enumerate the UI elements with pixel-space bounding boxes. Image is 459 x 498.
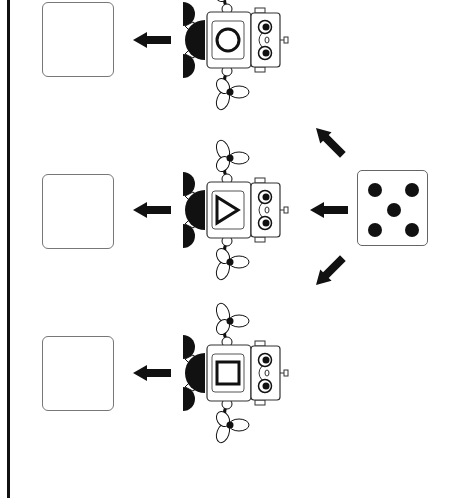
arrow-left-top-icon	[133, 32, 171, 48]
die-pip	[405, 183, 419, 197]
arrow-die-left-icon	[310, 202, 348, 218]
die-pip	[387, 203, 401, 217]
diagram-arrows-and-robots	[0, 0, 459, 498]
robot-middle	[183, 139, 288, 282]
arrow-die-down-left-icon	[310, 252, 348, 290]
robot-bottom	[183, 302, 288, 445]
die-five	[357, 170, 428, 246]
robot-top	[183, 0, 288, 111]
die-pip	[368, 223, 382, 237]
die-pip	[368, 183, 382, 197]
arrow-left-middle-icon	[133, 202, 171, 218]
arrow-left-bottom-icon	[133, 365, 171, 381]
arrow-die-up-left-icon	[310, 122, 348, 160]
die-pip	[405, 223, 419, 237]
